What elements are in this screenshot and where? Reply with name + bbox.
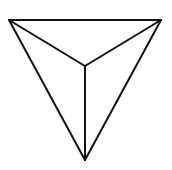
diagram-edges: [9, 20, 161, 160]
right-edge: [85, 20, 161, 160]
left-edge: [9, 20, 85, 160]
tetrahedron-diagram: [0, 0, 172, 170]
